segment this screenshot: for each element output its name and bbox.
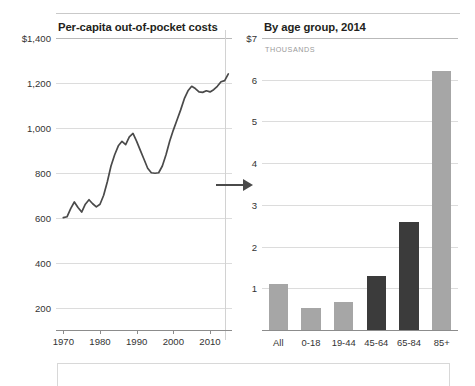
- x-axis-line: [262, 330, 458, 331]
- bar-category-label: 45-64: [364, 337, 388, 348]
- right-panel-title: By age group, 2014: [264, 21, 366, 33]
- y-axis-tick-label: 5: [252, 116, 257, 127]
- y-axis-tick-label: 4: [252, 158, 257, 169]
- bar-65-84: [399, 222, 419, 330]
- y-axis-tick-label: 6: [252, 74, 257, 85]
- bar-0-18: [301, 308, 321, 330]
- bar-category-label: 65-84: [397, 337, 421, 348]
- bar-85-: [432, 71, 452, 330]
- bar-chart-plot-area: $7654321All0-1819-4445-6465-8485+: [262, 38, 458, 330]
- y-axis-tick-label: 2: [252, 241, 257, 252]
- gridline: [262, 121, 458, 122]
- gridline: [262, 38, 458, 39]
- bar-all: [269, 284, 289, 330]
- y-axis-tick-label: 1: [252, 283, 257, 294]
- y-axis-tick-label: 3: [252, 199, 257, 210]
- bar-category-label: 0-18: [302, 337, 321, 348]
- bar-category-label: 85+: [434, 337, 450, 348]
- gridline: [262, 80, 458, 81]
- bottom-frame-border: [57, 363, 450, 386]
- gridline: [262, 205, 458, 206]
- gridline: [262, 247, 458, 248]
- y-axis-tick-label: $7: [246, 33, 257, 44]
- gridline: [262, 288, 458, 289]
- bar-category-label: 19-44: [332, 337, 356, 348]
- bar-19-44: [334, 302, 354, 330]
- bar-45-64: [367, 276, 387, 330]
- gridline: [262, 163, 458, 164]
- bar-category-label: All: [273, 337, 283, 348]
